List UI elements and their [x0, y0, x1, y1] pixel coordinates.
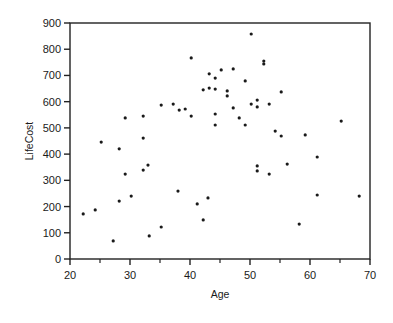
data-point — [244, 79, 247, 82]
data-point — [160, 225, 163, 228]
y-tick-label: 0 — [55, 253, 61, 265]
y-tick-label: 500 — [43, 122, 61, 134]
x-tick-label: 70 — [364, 269, 376, 281]
data-point — [262, 62, 265, 65]
data-point — [148, 234, 151, 237]
data-point — [238, 116, 241, 119]
plot-frame — [70, 23, 370, 259]
y-tick-label: 600 — [43, 96, 61, 108]
x-tick-label: 60 — [304, 269, 316, 281]
data-point — [268, 102, 271, 105]
y-tick-label: 700 — [43, 69, 61, 81]
y-tick-label: 400 — [43, 148, 61, 160]
data-point — [176, 189, 179, 192]
data-point — [112, 239, 115, 242]
data-point — [250, 32, 253, 35]
data-point — [274, 129, 277, 132]
data-point — [214, 76, 217, 79]
data-point — [358, 194, 361, 197]
x-tick-label: 50 — [244, 269, 256, 281]
data-point — [202, 218, 205, 221]
data-point — [206, 196, 209, 199]
x-axis-title: Age — [211, 288, 230, 300]
data-point — [340, 119, 343, 122]
x-tick-label: 40 — [184, 269, 196, 281]
data-point — [316, 155, 319, 158]
data-point — [220, 68, 223, 71]
data-point — [184, 107, 187, 110]
data-point — [82, 212, 85, 215]
data-point — [268, 172, 271, 175]
x-tick-label: 30 — [124, 269, 136, 281]
data-point — [280, 90, 283, 93]
data-point — [226, 94, 229, 97]
data-point — [142, 114, 145, 117]
y-tick-label: 900 — [43, 17, 61, 29]
data-point — [262, 59, 265, 62]
y-tick-label: 100 — [43, 227, 61, 239]
data-point — [178, 108, 181, 111]
data-point — [232, 106, 235, 109]
data-point — [256, 164, 259, 167]
data-point — [316, 193, 319, 196]
data-point — [130, 194, 133, 197]
data-point — [146, 164, 149, 167]
y-axis-title: LifeCost — [23, 122, 35, 161]
data-point — [190, 56, 193, 59]
x-axis: 203040506070 — [64, 259, 376, 281]
data-point — [256, 169, 259, 172]
data-point — [214, 123, 217, 126]
data-point — [208, 72, 211, 75]
data-point — [190, 114, 193, 117]
data-point — [100, 140, 103, 143]
data-points — [82, 32, 361, 242]
data-point — [118, 147, 121, 150]
data-point — [214, 87, 217, 90]
data-point — [226, 89, 229, 92]
data-point — [256, 105, 259, 108]
data-point — [118, 199, 121, 202]
data-point — [196, 202, 199, 205]
data-point — [280, 134, 283, 137]
data-point — [142, 137, 145, 140]
data-point — [202, 88, 205, 91]
data-point — [304, 133, 307, 136]
data-point — [232, 67, 235, 70]
data-point — [298, 223, 301, 226]
data-point — [124, 116, 127, 119]
data-point — [208, 86, 211, 89]
y-tick-label: 200 — [43, 201, 61, 213]
data-point — [94, 208, 97, 211]
data-point — [214, 112, 217, 115]
data-point — [256, 98, 259, 101]
data-point — [250, 102, 253, 105]
data-point — [160, 103, 163, 106]
y-tick-label: 800 — [43, 43, 61, 55]
y-tick-label: 300 — [43, 174, 61, 186]
data-point — [124, 172, 127, 175]
x-tick-label: 20 — [64, 269, 76, 281]
data-point — [142, 169, 145, 172]
data-point — [244, 123, 247, 126]
y-axis: 0100200300400500600700800900 — [43, 17, 70, 265]
data-point — [286, 162, 289, 165]
data-point — [172, 102, 175, 105]
scatter-chart: 0100200300400500600700800900 20304050607… — [0, 0, 393, 323]
